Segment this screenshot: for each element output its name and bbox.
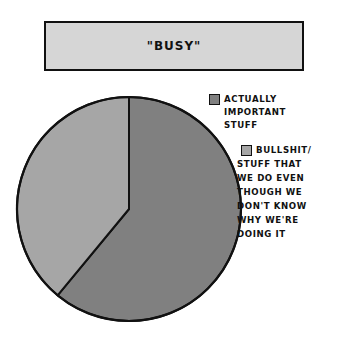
legend-text: DOING IT bbox=[237, 227, 311, 241]
legend-swatch-dark bbox=[209, 94, 220, 105]
legend-text: STUFF THAT bbox=[237, 157, 311, 171]
legend-item-actually-important: ACTUALLY IMPORTANT STUFF bbox=[209, 93, 286, 132]
legend-text: IMPORTANT bbox=[224, 106, 286, 119]
legend-text: WHY WE'RE bbox=[237, 213, 311, 227]
legend-text: THOUGH WE bbox=[237, 185, 311, 199]
legend-item-bullshit: BULLSHIT/ STUFF THAT WE DO EVEN THOUGH W… bbox=[241, 144, 311, 241]
legend-text: BULLSHIT/ bbox=[256, 144, 311, 157]
legend-swatch-light bbox=[241, 145, 252, 156]
legend-text: WE DO EVEN bbox=[237, 171, 311, 185]
legend-text: STUFF bbox=[224, 119, 286, 132]
legend-text: DON'T KNOW bbox=[237, 199, 311, 213]
legend-text: ACTUALLY bbox=[224, 93, 286, 106]
